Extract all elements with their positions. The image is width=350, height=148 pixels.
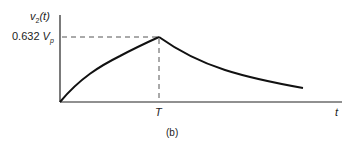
x-tick-T: T	[155, 106, 162, 118]
charging-curve	[60, 37, 159, 102]
ytick-v: V	[43, 30, 50, 42]
ylabel-arg: (t)	[39, 10, 49, 22]
figure-caption: (b)	[166, 127, 178, 138]
ytick-number: 0.632	[12, 30, 43, 42]
x-axis-label: t	[335, 106, 338, 118]
plot-canvas	[0, 0, 350, 148]
y-axis-label: v2(t)	[30, 10, 50, 24]
discharging-curve	[159, 37, 303, 88]
ytick-sub: p	[50, 37, 54, 44]
waveform-figure: v2(t) 0.632 Vp T t (b)	[0, 0, 350, 148]
y-tick-label: 0.632 Vp	[12, 30, 54, 44]
